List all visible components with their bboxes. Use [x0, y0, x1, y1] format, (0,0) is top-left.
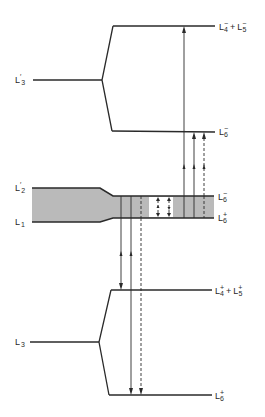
arrow-up-icon	[182, 26, 186, 196]
label-l6m-upper: L−6	[219, 125, 228, 138]
double-arrow-icon	[167, 197, 171, 217]
downward-transitions	[119, 218, 143, 395]
arrow-down-icon	[119, 218, 123, 290]
label-l1: L1	[15, 217, 25, 228]
lower-level-group	[30, 290, 212, 395]
label-l6p-band: L+6	[218, 211, 227, 224]
label-l3: L3	[15, 337, 25, 348]
label-l2-prime: L′2	[15, 181, 25, 194]
upper-level-group	[33, 26, 215, 132]
level-l6m-upper	[112, 131, 215, 132]
arrow-up-dashed-icon	[202, 132, 206, 196]
energy-level-diagram: L′3 L′2 L1 L3 L−4+L−5 L−6 L−6 L+6 L+4+L+…	[0, 0, 265, 417]
lower-split-bracket	[99, 290, 111, 395]
label-l4m-plus-l5m: L−4+L−5	[219, 20, 246, 33]
shaded-band	[32, 188, 214, 222]
arrow-down-dashed-icon	[139, 218, 143, 395]
label-l6m-band: L−6	[218, 190, 227, 203]
label-l3-prime: L′3	[15, 73, 25, 86]
band-group	[32, 188, 214, 222]
upper-split-bracket	[102, 26, 113, 131]
label-l4p-plus-l5p: L+4+L+5	[215, 284, 242, 297]
arrow-down-icon	[129, 218, 133, 395]
upward-transitions	[182, 26, 206, 196]
label-l6p-lower: L+6	[215, 389, 224, 402]
arrow-up-icon	[192, 132, 196, 196]
